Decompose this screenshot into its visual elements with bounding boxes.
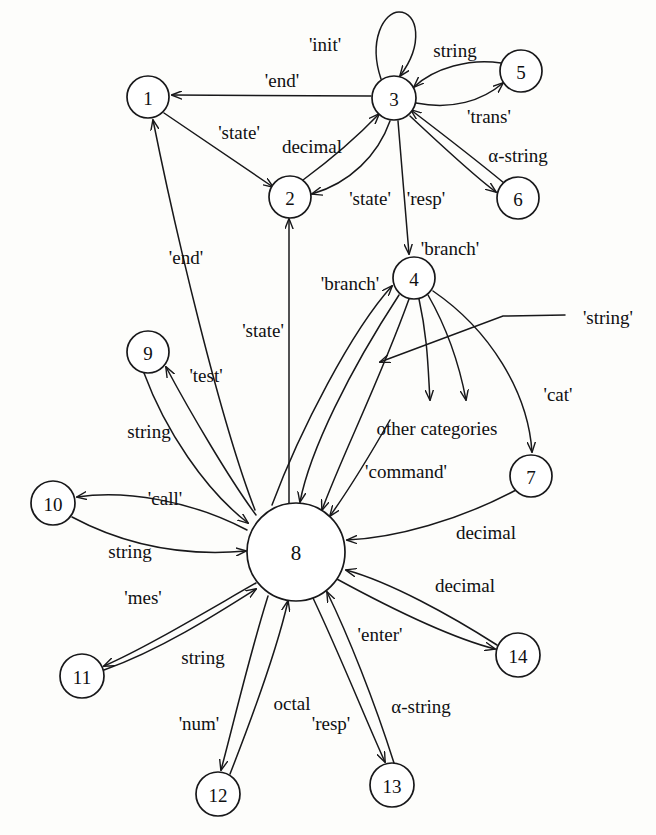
state-node-13[interactable]: 13 xyxy=(370,763,414,807)
transition-edge xyxy=(221,596,268,770)
transition-label: 'string' xyxy=(583,307,633,328)
transition-label: string xyxy=(108,541,152,562)
transition-label: 'end' xyxy=(265,70,299,91)
transition-label: 'cat' xyxy=(544,384,573,405)
transition-label: α-string xyxy=(391,696,451,717)
transition-label: 'test' xyxy=(189,365,222,386)
transition-label: 'resp' xyxy=(407,188,446,209)
state-node-3[interactable]: 3 xyxy=(372,76,416,120)
state-node-2[interactable]: 2 xyxy=(269,176,311,218)
transition-edge xyxy=(376,12,416,79)
state-node-label: 6 xyxy=(513,189,523,210)
state-node-14[interactable]: 14 xyxy=(496,633,540,677)
transition-label: 'trans' xyxy=(467,106,511,127)
transition-label: 'command' xyxy=(365,461,447,482)
state-node-label: 7 xyxy=(526,467,536,488)
transition-edge xyxy=(327,592,394,763)
transition-label: octal xyxy=(274,693,311,714)
state-diagram-canvas: 1234567891011121314 'init''end'string'tr… xyxy=(0,0,656,835)
transition-label: string xyxy=(127,421,171,442)
state-diagram-figure: 1234567891011121314 'init''end'string'tr… xyxy=(0,0,656,835)
transition-label: string xyxy=(181,647,225,668)
transition-edge xyxy=(380,315,565,362)
transition-edge xyxy=(410,116,496,192)
state-node-label: 5 xyxy=(516,62,526,83)
transition-label: 'call' xyxy=(148,488,182,509)
state-node-label: 2 xyxy=(285,188,295,209)
transition-label: α-string xyxy=(488,145,548,166)
state-node-label: 13 xyxy=(383,776,402,797)
state-node-6[interactable]: 6 xyxy=(497,177,539,219)
transition-label: 'init' xyxy=(309,34,341,55)
transition-label: 'enter' xyxy=(358,624,403,645)
transition-label: 'resp' xyxy=(312,713,351,734)
transition-label: 'branch' xyxy=(421,238,480,259)
transition-edge xyxy=(72,517,246,552)
state-node-label: 1 xyxy=(143,88,153,109)
state-node-4[interactable]: 4 xyxy=(393,257,435,299)
state-node-8[interactable]: 8 xyxy=(247,503,345,601)
state-node-label: 12 xyxy=(209,785,228,806)
transition-edge xyxy=(312,121,390,194)
state-node-5[interactable]: 5 xyxy=(500,50,542,92)
transition-edge xyxy=(419,299,430,400)
transition-label: 'end' xyxy=(169,247,203,268)
transition-label: 'branch' xyxy=(321,273,380,294)
state-node-label: 10 xyxy=(44,494,63,515)
transition-label: string xyxy=(433,40,477,61)
other-categories-label: other categories xyxy=(377,418,498,439)
state-node-10[interactable]: 10 xyxy=(31,481,75,525)
transition-edge xyxy=(416,83,503,105)
state-node-label: 3 xyxy=(389,89,399,110)
free-text-layer: other categories xyxy=(377,418,498,439)
state-node-11[interactable]: 11 xyxy=(60,654,104,698)
state-node-label: 9 xyxy=(143,343,153,364)
transition-edge xyxy=(153,120,255,510)
transition-label: 'mes' xyxy=(124,587,161,608)
state-node-label: 8 xyxy=(291,541,302,565)
state-node-7[interactable]: 7 xyxy=(510,455,552,497)
transition-edge xyxy=(428,295,466,400)
state-node-1[interactable]: 1 xyxy=(127,76,169,118)
transition-label: decimal xyxy=(282,136,342,157)
transition-label: 'state' xyxy=(349,188,391,209)
state-node-9[interactable]: 9 xyxy=(127,331,169,373)
state-node-label: 4 xyxy=(409,269,419,290)
transition-edge xyxy=(172,95,371,96)
transition-edge xyxy=(414,62,501,87)
transition-label: 'state' xyxy=(218,122,260,143)
state-node-12[interactable]: 12 xyxy=(196,772,240,816)
transition-label: decimal xyxy=(456,522,516,543)
transition-label: decimal xyxy=(435,575,495,596)
state-node-label: 11 xyxy=(73,667,91,688)
state-node-label: 14 xyxy=(509,646,529,667)
transition-label: 'state' xyxy=(242,320,284,341)
transition-label: 'num' xyxy=(179,713,220,734)
edge-labels-layer: 'init''end'string'trans''state'decimal's… xyxy=(108,34,633,734)
